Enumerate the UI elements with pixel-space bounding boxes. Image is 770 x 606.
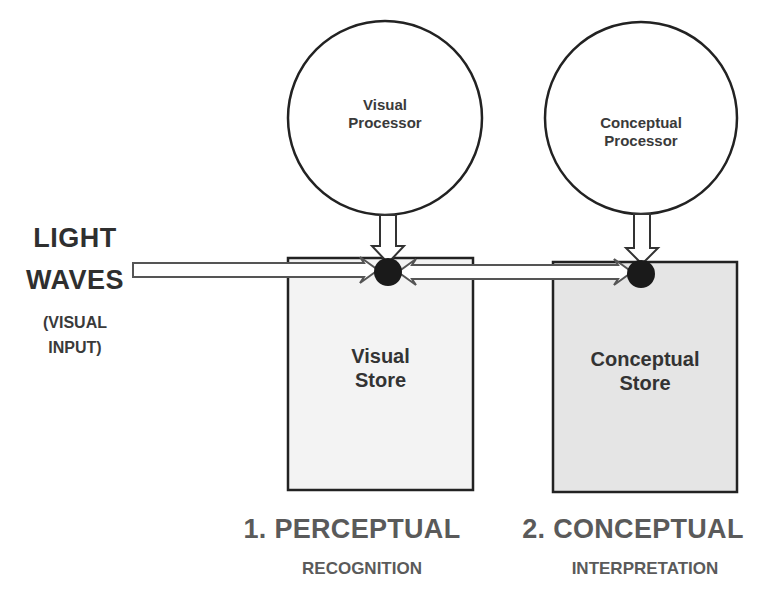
conceptual-store-line1: Conceptual — [553, 347, 737, 371]
stage-2-subtitle: INTERPRETATION — [540, 559, 750, 579]
visual-processor-line1: Visual — [310, 96, 460, 114]
input-sublabel-line2: INPUT) — [20, 338, 130, 357]
conceptual-processor-line2: Processor — [566, 132, 716, 150]
stage-1-title: 1. PERCEPTUAL — [232, 513, 472, 545]
visual-store-line1: Visual — [288, 344, 473, 368]
visual-junction-node — [374, 258, 402, 286]
visual-store-line2: Store — [288, 368, 473, 392]
conceptual-processor-line1: Conceptual — [566, 114, 716, 132]
conceptual-junction-node — [627, 260, 655, 288]
visual-processor-line2: Processor — [310, 114, 460, 132]
visual-down-arrow — [372, 215, 404, 263]
visual-store-label: Visual Store — [288, 344, 473, 392]
stage-2-title: 2. CONCEPTUAL — [508, 513, 758, 545]
input-label-line1: LIGHT — [20, 222, 130, 254]
conceptual-processor-label: Conceptual Processor — [566, 114, 716, 150]
conceptual-down-arrow — [626, 214, 658, 264]
conceptual-store-line2: Store — [553, 371, 737, 395]
input-label-line2: WAVES — [20, 264, 130, 296]
stage-1-subtitle: RECOGNITION — [262, 559, 462, 579]
visual-processor-label: Visual Processor — [310, 96, 460, 132]
input-sublabel-line1: (VISUAL — [20, 313, 130, 332]
conceptual-store-label: Conceptual Store — [553, 347, 737, 395]
